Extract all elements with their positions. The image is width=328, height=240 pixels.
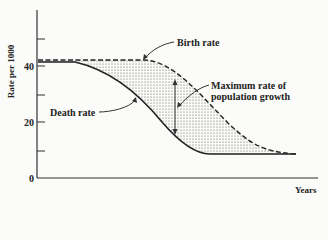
y-tick-label-40: 40	[24, 61, 34, 72]
y-ticks	[37, 39, 45, 151]
max-growth-label-line2: population growth	[211, 91, 290, 102]
y-tick-label-20: 20	[24, 117, 34, 128]
max-growth-label-line1: Maximum rate of	[211, 80, 290, 91]
death-rate-label: Death rate	[50, 107, 95, 118]
max-growth-label: Maximum rate of population growth	[211, 80, 290, 102]
x-axis-label: Years	[295, 185, 317, 196]
birth-rate-label: Birth rate	[177, 37, 220, 48]
y-tick-label-0: 0	[29, 173, 34, 184]
y-axis-label: Rate per 1000	[6, 45, 17, 98]
